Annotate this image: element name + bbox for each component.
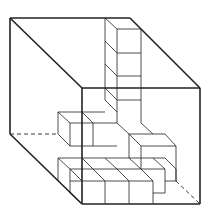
cube-diagram-svg — [0, 0, 212, 221]
unit-cube-edge — [117, 123, 129, 134]
unit-cube-edge — [58, 134, 70, 146]
unit-cube-edge — [141, 169, 153, 181]
unit-cube-edge — [165, 134, 176, 146]
unit-cube-edge — [117, 169, 129, 181]
unit-cube-edge — [129, 158, 141, 169]
unit-cube-edge — [105, 18, 117, 29]
unit-cube-edge — [70, 169, 82, 181]
unit-cube-edge — [105, 64, 117, 76]
unit-cube-edge — [105, 41, 117, 53]
unit-cube-edge — [82, 158, 93, 169]
unit-cube-edge — [58, 112, 70, 123]
unit-cube-edge — [165, 158, 176, 169]
unit-cube-edge — [153, 158, 165, 169]
hidden-edge — [176, 181, 200, 204]
unit-cube-edge — [141, 123, 153, 134]
unit-cube-edge — [105, 100, 117, 112]
unit-cube-edge — [105, 88, 117, 100]
unit-cube-edge — [129, 134, 141, 146]
unit-cube-edge — [93, 169, 105, 181]
cube-diagram — [0, 0, 212, 221]
outer-edge — [10, 18, 82, 88]
unit-cube-edge — [58, 158, 70, 169]
unit-cube-edge — [82, 112, 93, 123]
unit-cube-edge — [70, 193, 82, 204]
unit-cube-edge — [105, 158, 117, 169]
